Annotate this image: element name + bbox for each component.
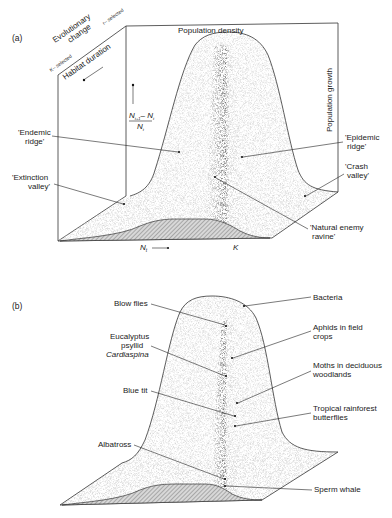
panel-b: (b) Blow flies Eucalyptus psyllid Cardia…	[12, 293, 382, 505]
nt-axis-label: Nt	[140, 243, 148, 253]
panel-a: (a) Evolutionary change K– selected r– s…	[12, 7, 379, 253]
annotation-extinction-valley: 'Extinction valley'	[12, 173, 125, 205]
svg-text:ridge': ridge'	[347, 142, 367, 151]
surface-b-mountain	[60, 296, 338, 505]
k-axis-label: K	[233, 243, 239, 252]
svg-text:valley': valley'	[347, 171, 369, 180]
panel-b-label: (b)	[12, 301, 23, 311]
svg-text:Bacteria: Bacteria	[313, 293, 343, 302]
svg-text:crops: crops	[313, 332, 333, 341]
synoptic-model-figure: (a) Evolutionary change K– selected r– s…	[0, 0, 392, 518]
growth-ratio-label: Nt+1– Nt Nt	[129, 84, 155, 132]
svg-text:Sperm whale: Sperm whale	[314, 485, 361, 494]
annotation-endemic-ridge: 'Endemic ridge'	[18, 128, 180, 153]
svg-text:'Natural enemy: 'Natural enemy	[310, 223, 364, 232]
svg-text:woodlands: woodlands	[312, 370, 351, 379]
panel-a-label: (a)	[12, 33, 23, 43]
svg-text:Albatross: Albatross	[98, 440, 131, 449]
svg-text:Eucalyptus: Eucalyptus	[110, 332, 149, 341]
svg-text:Nt+1– Nt: Nt+1– Nt	[129, 111, 155, 121]
svg-text:valley': valley'	[28, 182, 50, 191]
svg-text:Moths in deciduous: Moths in deciduous	[313, 361, 382, 370]
svg-text:Tropical rainforest: Tropical rainforest	[313, 404, 378, 413]
annotation-bacteria: Bacteria	[243, 293, 343, 307]
depth-axis-labels: Evolutionary change K– selected r– selec…	[48, 7, 125, 82]
surface-a-mountain	[58, 32, 338, 241]
svg-text:psyllid: psyllid	[121, 341, 143, 350]
svg-text:Blow flies: Blow flies	[114, 299, 148, 308]
r-selected-label: r– selected	[101, 7, 125, 26]
svg-text:Nt: Nt	[137, 122, 145, 132]
population-density-label: Population density	[178, 26, 243, 35]
svg-text:Aphids in field: Aphids in field	[313, 323, 363, 332]
habitat-duration-arrowhead	[83, 79, 85, 81]
habitat-duration-label: Habitat duration	[61, 42, 112, 82]
svg-text:ravine': ravine'	[312, 232, 336, 241]
habitat-duration-arrow	[85, 67, 103, 79]
population-growth-label: Population growth	[325, 68, 334, 132]
svg-text:butterflies: butterflies	[313, 413, 348, 422]
svg-text:'Endemic: 'Endemic	[18, 128, 51, 137]
svg-text:'Extinction: 'Extinction	[12, 173, 48, 182]
svg-text:'Crash: 'Crash	[345, 162, 368, 171]
svg-text:Cardiaspina: Cardiaspina	[106, 350, 149, 359]
svg-text:Blue tit: Blue tit	[123, 386, 148, 395]
svg-text:ridge': ridge'	[25, 137, 45, 146]
svg-text:'Epidemic: 'Epidemic	[345, 133, 379, 142]
